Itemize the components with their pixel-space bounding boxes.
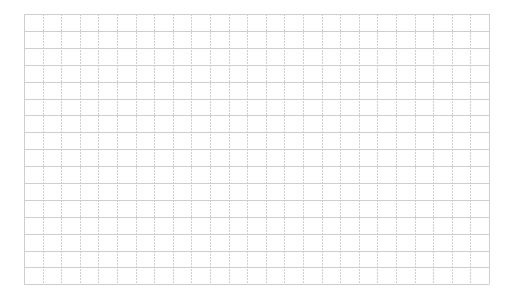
- grid-lines: [24, 14, 490, 285]
- empty-grid: [24, 14, 490, 285]
